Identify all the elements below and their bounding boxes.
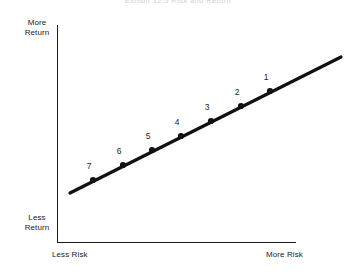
data-point-marker [90,177,96,183]
exhibit-title-strip: Exhibit 12.5 Risk and Return [0,0,356,7]
data-point-marker [267,88,273,94]
data-point-label: 6 [117,146,122,156]
x-axis-left-label: Less Risk [52,250,88,260]
y-axis-bottom-label: Less Return [20,213,54,233]
data-point-marker [149,147,155,153]
exhibit-title: Exhibit 12.5 Risk and Return [0,0,356,5]
x-axis-line [57,242,296,243]
data-point-label: 3 [205,102,210,112]
data-point-label: 5 [146,131,151,141]
data-point-marker [208,118,214,124]
x-axis-right-label: More Risk [266,250,303,260]
data-point-label: 4 [175,117,180,127]
y-axis-top-label: More Return [20,18,54,38]
data-point-marker [238,103,244,109]
data-point-label: 7 [87,161,92,171]
chart-screenshot: Exhibit 12.5 Risk and Return More Return… [0,0,356,274]
data-point-markers [90,88,273,183]
data-point-marker [178,133,184,139]
data-point-label: 1 [264,72,269,82]
risk-return-trend-line [70,57,341,193]
data-point-marker [120,162,126,168]
y-axis-line [57,25,58,243]
data-point-label: 2 [235,87,240,97]
